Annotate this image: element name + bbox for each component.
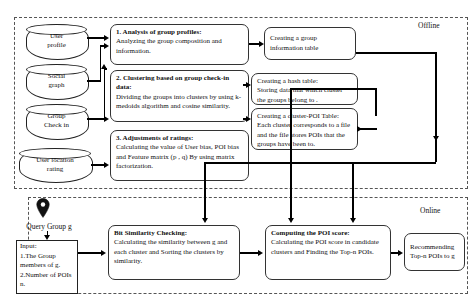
output-heading: Creating a hash table:: [257, 77, 352, 86]
rail-groupinfo-h: [356, 52, 437, 54]
datastore-label: Social graph: [26, 64, 87, 98]
rail-bottom-h: [290, 162, 436, 164]
arrowhead: [101, 250, 106, 256]
datastore-user-location-rating: User location rating: [19, 148, 91, 181]
arrowhead: [104, 43, 109, 49]
arrowhead: [104, 116, 109, 122]
process-body: Calculating the POI score in candidate c…: [271, 238, 385, 257]
arrowhead: [357, 126, 362, 132]
arrowhead: [44, 235, 50, 240]
rail-mid-down: [290, 88, 292, 220]
rail-to-online-right: [352, 162, 354, 220]
arrowhead: [350, 218, 356, 223]
arrowhead: [246, 116, 251, 122]
connector-userprofile-analysis: [87, 37, 105, 39]
output-box-group-information-table: Creating a group information table: [264, 27, 356, 60]
datastore-label-line1: Social: [48, 72, 66, 81]
output-box-recommending: Recommending Top-n POIs to g: [404, 233, 465, 271]
rail-clusterpoi-h: [204, 162, 292, 164]
connector-socialgraph-seg2: [100, 45, 102, 81]
process-heading: Bit Similarity Checking:: [114, 229, 187, 237]
connector-checkin-seg1: [87, 118, 105, 120]
online-region: [28, 197, 468, 294]
online-region-label: Online: [420, 206, 440, 215]
datastore-label: User profile: [26, 24, 87, 58]
datastore-group-checkin: Group Check in: [26, 104, 87, 138]
datastore-label: Group Check in: [26, 104, 87, 138]
connector-input-bitsim: [78, 252, 102, 254]
rail-hash-left: [290, 88, 376, 90]
map-pin-icon: [36, 198, 50, 218]
arrowhead: [104, 35, 109, 41]
datastore-label-line2: Check in: [44, 121, 69, 130]
output-line2: Top-n POIs to g: [410, 252, 455, 261]
process-body: Calculating the value of User bias, POI …: [116, 143, 243, 171]
input-item: 2.Number of POIs n.: [20, 271, 74, 290]
arrowhead: [398, 250, 403, 256]
input-title: Input:: [20, 242, 74, 252]
output-text: Creating a group information table: [270, 34, 318, 53]
arrowhead: [288, 218, 294, 223]
process-box-clustering: 2. Clustering based on group check-in da…: [110, 70, 249, 122]
datastore-social-graph: Social graph: [26, 64, 87, 98]
connector-rating-adjust: [91, 164, 105, 166]
output-line1: Recommending: [410, 243, 455, 252]
process-heading: 3. Adjustments of ratings:: [116, 134, 193, 142]
diagram-canvas: Offline Online User profile Social graph…: [0, 0, 471, 301]
arrowhead: [246, 82, 251, 88]
process-heading: Computing the POI score:: [271, 229, 350, 237]
rail-groupinfo-v: [435, 52, 437, 140]
connector-bitsim-poiscore: [240, 252, 259, 254]
rail-bottom-down: [435, 140, 437, 162]
input-item: 1.The Group members of g.: [20, 252, 74, 271]
datastore-label-line2: graph: [49, 81, 65, 90]
process-body: Calculating the similarity between g and…: [114, 238, 234, 266]
process-heading: 1. Analysis of group profiles:: [116, 28, 202, 36]
process-box-adjustments: 3. Adjustments of ratings: Calculating t…: [110, 130, 249, 181]
offline-region-label: Offline: [418, 21, 440, 30]
process-body: Dividing the groups into clusters by usi…: [116, 93, 243, 112]
process-box-computing-poi-score: Computing the POI score: Calculating the…: [265, 225, 391, 280]
arrowhead: [104, 162, 109, 168]
output-line2: information table: [270, 44, 318, 53]
datastore-label: User location rating: [19, 148, 91, 181]
datastore-label-line1: User: [50, 32, 63, 41]
arrowhead: [258, 250, 263, 256]
datastore-label-line2: rating: [47, 165, 63, 174]
process-box-analysis: 1. Analysis of group profiles: Analyzing…: [110, 24, 249, 65]
process-heading: 2. Clustering based on group check-in da…: [116, 74, 229, 91]
output-box-cluster-poi-table: Creating a cluster-POI Table: Each clust…: [251, 108, 358, 150]
output-heading: Creating a cluster-POI Table:: [257, 112, 352, 121]
arrowhead: [259, 41, 264, 47]
datastore-user-profile: User profile: [26, 24, 87, 58]
input-box: Input: 1.The Group members of g. 2.Numbe…: [16, 240, 78, 294]
output-body: Each cluster corresponds to a file and t…: [257, 121, 352, 149]
process-body: Analyzing the group composition and info…: [116, 37, 243, 56]
arrowhead: [101, 64, 107, 69]
process-box-bit-similarity-checking: Bit Similarity Checking: Calculating the…: [108, 225, 240, 280]
output-text: Recommending Top-n POIs to g: [410, 243, 455, 262]
datastore-label-line1: User location: [36, 156, 74, 165]
arrowhead: [202, 218, 208, 223]
datastore-label-line1: Group: [48, 112, 66, 121]
rail-clusterpoi-down: [204, 162, 206, 220]
connector-checkin-seg2: [104, 68, 106, 120]
datastore-label-line2: profile: [47, 41, 66, 50]
rail-hash-v: [375, 88, 377, 116]
output-line1: Creating a group: [270, 34, 318, 43]
query-group-label: Query Group g: [14, 222, 84, 231]
